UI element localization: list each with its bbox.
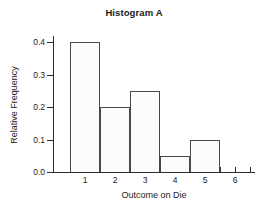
y-tick-label: 0.3 (5, 71, 45, 80)
x-axis-line (53, 172, 255, 173)
y-tick-mark (47, 172, 53, 173)
histogram-bar (100, 107, 130, 172)
y-tick-label: 0.1 (5, 136, 45, 145)
x-tick-label: 2 (103, 176, 127, 185)
chart-title: Histogram A (0, 7, 268, 18)
histogram-bar (70, 42, 100, 172)
x-edge-tick (220, 167, 221, 172)
x-tick-label: 3 (133, 176, 157, 185)
y-tick-label: 0.2 (5, 103, 45, 112)
x-tick-label: 5 (193, 176, 217, 185)
x-tick-label: 4 (163, 176, 187, 185)
histogram-bar (190, 140, 220, 173)
histogram-bar (130, 91, 160, 172)
y-tick-mark (47, 75, 53, 76)
x-axis-title: Outcome on Die (53, 190, 255, 200)
y-axis-line (53, 36, 54, 173)
y-tick-label: 0.0 (5, 168, 45, 177)
x-edge-tick (250, 167, 251, 172)
y-tick-mark (47, 107, 53, 108)
y-tick-label: 0.4 (5, 38, 45, 47)
x-tick-mark (235, 167, 236, 172)
x-tick-label: 6 (223, 176, 247, 185)
histogram-figure: Histogram A Relative Frequency Outcome o… (0, 0, 268, 210)
x-tick-label: 1 (73, 176, 97, 185)
y-tick-mark (47, 140, 53, 141)
y-tick-mark (47, 42, 53, 43)
histogram-bar (160, 156, 190, 172)
